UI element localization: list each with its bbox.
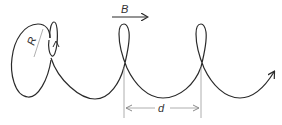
radius-label: R	[24, 35, 38, 46]
field-label: B	[121, 3, 128, 15]
helix-diagram: B R d	[0, 0, 282, 125]
pitch-label: d	[158, 102, 165, 114]
direction-arrow-small	[53, 41, 59, 47]
helix-start-loop	[12, 24, 51, 97]
helix-arc-2	[127, 67, 201, 98]
helix-arc-1	[51, 58, 124, 99]
helix-small-loop	[49, 22, 58, 56]
helix-loop-2	[196, 24, 206, 68]
helix-loop-1	[119, 24, 129, 68]
helix-arc-3	[204, 68, 274, 98]
